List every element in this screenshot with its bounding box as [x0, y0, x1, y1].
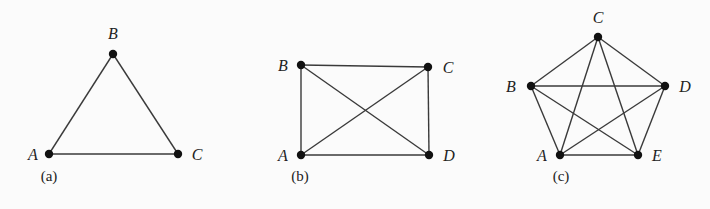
vertex-label-A: A	[536, 147, 547, 164]
vertex-label-B: B	[278, 57, 288, 74]
edge-AC	[301, 67, 428, 155]
edge-CD	[428, 67, 429, 155]
vertex-A	[297, 151, 305, 159]
vertex-label-D: D	[442, 147, 455, 164]
vertex-D	[425, 151, 433, 159]
edge-CD	[598, 37, 665, 86]
vertex-B	[297, 61, 305, 69]
vertex-label-C: C	[593, 9, 604, 26]
complete-graphs-figure: ABC(a)ABCD(b)ABCDE(c)	[0, 0, 710, 209]
vertex-C	[424, 63, 432, 71]
vertex-C	[174, 150, 182, 158]
vertex-D	[661, 82, 669, 90]
edge-AD	[560, 86, 665, 155]
vertex-label-B: B	[506, 78, 516, 95]
edge-CE	[598, 37, 638, 155]
vertex-label-E: E	[651, 147, 662, 164]
graph-canvas: ABC(a)ABCD(b)ABCDE(c)	[0, 0, 710, 209]
edge-AC	[560, 37, 598, 155]
caption-a: (a)	[41, 168, 58, 185]
vertex-B	[527, 82, 535, 90]
caption-c: (c)	[553, 168, 570, 185]
edge-BE	[531, 86, 638, 155]
vertex-label-B: B	[108, 25, 118, 42]
vertex-A	[556, 151, 564, 159]
vertex-label-C: C	[192, 146, 203, 163]
edge-BC	[301, 65, 428, 67]
caption-b: (b)	[291, 168, 309, 185]
edge-AB	[531, 86, 560, 155]
edge-BC	[531, 37, 598, 86]
vertex-label-A: A	[277, 147, 288, 164]
vertex-B	[109, 50, 117, 58]
edge-AB	[49, 54, 113, 154]
vertex-label-C: C	[443, 59, 454, 76]
vertex-label-A: A	[27, 146, 38, 163]
edge-DE	[638, 86, 665, 155]
graph-b: ABCD(b)	[277, 57, 455, 185]
vertex-C	[594, 33, 602, 41]
graph-a: ABC(a)	[27, 25, 203, 185]
vertex-E	[634, 151, 642, 159]
vertex-label-D: D	[678, 78, 691, 95]
vertex-A	[45, 150, 53, 158]
graph-c: ABCDE(c)	[506, 9, 691, 185]
edge-BC	[113, 54, 178, 154]
